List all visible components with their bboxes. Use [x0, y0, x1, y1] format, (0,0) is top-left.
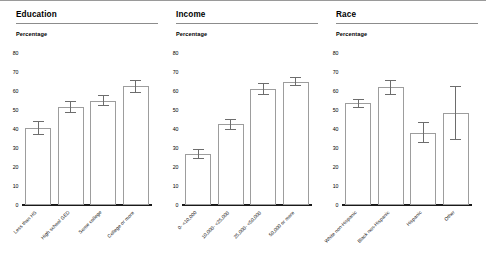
- bar: [58, 107, 84, 205]
- y-axis-label: Percentage: [336, 31, 367, 37]
- error-bar-cap-bottom: [130, 92, 141, 93]
- panel-title-rule: [16, 23, 158, 24]
- error-bar-cap-bottom: [385, 94, 396, 95]
- bar: [123, 86, 149, 205]
- error-bar-line: [390, 80, 391, 95]
- y-axis-tick: 30: [173, 145, 179, 151]
- panel-title-rule: [176, 23, 318, 24]
- y-axis-tick: 20: [173, 164, 179, 170]
- y-axis-label: Percentage: [176, 31, 207, 37]
- panel-title: Education: [16, 10, 57, 19]
- error-bar: [385, 80, 396, 95]
- error-bar: [98, 95, 109, 106]
- error-bar: [290, 77, 301, 87]
- error-bar-cap-top: [418, 122, 429, 123]
- panel-title-rule: [336, 23, 478, 24]
- y-axis-label: Percentage: [16, 31, 47, 37]
- y-axis-tick: 80: [13, 50, 19, 56]
- figure-canvas: EducationPercentage01020304050607080Less…: [0, 0, 486, 272]
- error-bar-cap-top: [450, 86, 461, 87]
- error-bar: [33, 121, 44, 134]
- error-bar-cap-bottom: [98, 105, 109, 106]
- y-axis-tick: 10: [333, 183, 339, 189]
- x-axis-tick-label: 50,000 or more: [268, 210, 295, 237]
- y-axis-tick: 0: [336, 202, 339, 208]
- x-axis-tick-label: Other: [443, 210, 455, 222]
- error-bar: [450, 86, 461, 139]
- x-axis-tick-label: Black non-Hispanic: [356, 210, 390, 244]
- y-axis-tick: 0: [176, 202, 179, 208]
- error-bar-cap-top: [65, 101, 76, 102]
- x-axis-tick-label: High school GED: [40, 210, 71, 241]
- y-axis-tick: 20: [333, 164, 339, 170]
- y-axis-tick: 60: [333, 88, 339, 94]
- y-axis-tick: 70: [13, 69, 19, 75]
- y-axis-tick: 30: [13, 145, 19, 151]
- error-bar-cap-top: [130, 80, 141, 81]
- bar: [25, 128, 51, 205]
- error-bar-cap-top: [98, 95, 109, 96]
- y-axis-tick: 80: [173, 50, 179, 56]
- error-bar-cap-bottom: [33, 134, 44, 135]
- bar: [185, 154, 211, 205]
- error-bar-cap-top: [193, 149, 204, 150]
- error-bar: [353, 99, 364, 109]
- bar: [410, 133, 436, 205]
- error-bar-cap-top: [33, 121, 44, 122]
- error-bar-cap-top: [258, 83, 269, 84]
- bar: [283, 82, 309, 206]
- error-bar-cap-top: [225, 119, 236, 120]
- y-axis-tick: 60: [173, 88, 179, 94]
- x-axis-tick-label: 10,000- <25,000: [201, 210, 230, 239]
- y-axis-tick: 20: [13, 164, 19, 170]
- error-bar: [65, 101, 76, 112]
- y-axis-tick: 10: [13, 183, 19, 189]
- bar: [378, 87, 404, 205]
- x-axis-tick-label: Less than HS: [13, 210, 38, 235]
- plot-area: 01020304050607080Less than HSHigh school…: [22, 53, 152, 205]
- error-bar-line: [455, 86, 456, 139]
- y-axis-tick: 80: [333, 50, 339, 56]
- error-bar: [193, 149, 204, 159]
- x-axis-tick-label: 25,000- <50,000: [233, 210, 262, 239]
- bar: [250, 89, 276, 205]
- y-axis-tick: 60: [13, 88, 19, 94]
- error-bar-line: [423, 122, 424, 143]
- y-axis-tick: 40: [13, 126, 19, 132]
- error-bar-cap-bottom: [353, 107, 364, 108]
- y-axis-tick: 50: [173, 107, 179, 113]
- x-axis-tick-label: White non-Hispanic: [324, 210, 358, 244]
- error-bar: [225, 119, 236, 130]
- error-bar-cap-bottom: [225, 129, 236, 130]
- y-axis-tick: 30: [333, 145, 339, 151]
- error-bar-line: [38, 121, 39, 134]
- error-bar-cap-bottom: [450, 139, 461, 140]
- y-axis-tick: 0: [16, 202, 19, 208]
- y-axis-tick: 50: [13, 107, 19, 113]
- error-bar-cap-bottom: [193, 158, 204, 159]
- panel-title: Income: [176, 10, 206, 19]
- bar: [218, 124, 244, 205]
- panel-education: EducationPercentage01020304050607080Less…: [0, 1, 160, 272]
- y-axis-tick: 50: [333, 107, 339, 113]
- error-bar-cap-top: [385, 80, 396, 81]
- x-axis-tick-label: 0- <10,000: [177, 210, 198, 231]
- error-bar-cap-top: [290, 77, 301, 78]
- error-bar-cap-bottom: [258, 94, 269, 95]
- bar: [90, 101, 116, 206]
- error-bar-cap-top: [353, 99, 364, 100]
- error-bar-line: [135, 80, 136, 93]
- x-axis-tick-label: Some college: [78, 210, 103, 235]
- y-axis-tick: 40: [173, 126, 179, 132]
- y-axis-tick: 10: [173, 183, 179, 189]
- error-bar: [258, 83, 269, 94]
- y-axis-tick: 40: [333, 126, 339, 132]
- x-axis-tick-label: Hispanic: [406, 210, 423, 227]
- plot-area: 010203040506070800- <10,00010,000- <25,0…: [182, 53, 312, 205]
- error-bar-cap-bottom: [65, 112, 76, 113]
- y-axis-tick: 70: [333, 69, 339, 75]
- panel-title: Race: [336, 10, 356, 19]
- panel-race: RacePercentage01020304050607080White non…: [320, 1, 486, 272]
- error-bar-cap-bottom: [418, 142, 429, 143]
- error-bar: [130, 80, 141, 93]
